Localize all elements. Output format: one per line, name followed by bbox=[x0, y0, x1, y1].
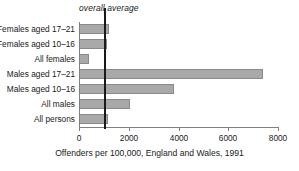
x-axis-tick-label: 8000 bbox=[269, 133, 287, 143]
x-axis-tick bbox=[228, 127, 229, 131]
x-axis-tick bbox=[179, 127, 180, 131]
bar-row: All males bbox=[79, 97, 278, 112]
x-axis-tick bbox=[79, 127, 80, 131]
category-label: Males aged 10–16 bbox=[7, 82, 79, 97]
category-label: All persons bbox=[34, 112, 79, 127]
overall-average-line bbox=[104, 8, 106, 129]
category-label: All females bbox=[34, 52, 79, 67]
bar-all-females bbox=[79, 54, 89, 64]
x-axis-tick bbox=[129, 127, 130, 131]
x-axis-tick-label: 2000 bbox=[120, 133, 138, 143]
x-axis-tick-label: 0 bbox=[77, 133, 82, 143]
x-axis-tick-label: 6000 bbox=[219, 133, 237, 143]
plot-area: Females aged 17–21 Females aged 10–16 Al… bbox=[79, 22, 278, 127]
bar-row: Males aged 10–16 bbox=[79, 82, 278, 97]
bar-row: All females bbox=[79, 52, 278, 67]
category-label: All males bbox=[41, 97, 79, 112]
bar-males-10-16 bbox=[79, 84, 174, 94]
category-label: Females aged 17–21 bbox=[0, 22, 79, 37]
category-label: Males aged 17–21 bbox=[7, 67, 79, 82]
bar-row: Males aged 17–21 bbox=[79, 67, 278, 82]
bar-males-17-21 bbox=[79, 69, 263, 79]
bar-females-10-16 bbox=[79, 39, 107, 49]
bar-row: Females aged 10–16 bbox=[79, 37, 278, 52]
y-axis-line bbox=[79, 22, 80, 127]
x-axis-title: Offenders per 100,000, England and Wales… bbox=[0, 148, 299, 158]
bar-row: All persons bbox=[79, 112, 278, 127]
overall-average-annotation-label: overall average bbox=[79, 3, 139, 13]
chart-figure: overall average Females aged 17–21 Femal… bbox=[0, 0, 299, 171]
x-axis-tick bbox=[278, 127, 279, 131]
bar-row: Females aged 17–21 bbox=[79, 22, 278, 37]
x-axis-tick-label: 4000 bbox=[170, 133, 188, 143]
category-label: Females aged 10–16 bbox=[0, 37, 79, 52]
